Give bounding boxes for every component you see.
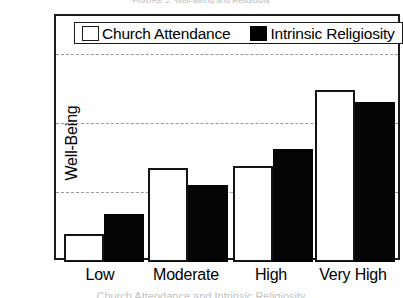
figure-caption-top: FIGURE 2. Well-Being and Religiosity bbox=[0, 0, 402, 4]
x-tick-very-high: Very High bbox=[310, 266, 396, 283]
legend-item-intrinsic-religiosity: Intrinsic Religiosity bbox=[247, 26, 397, 41]
bars-layer bbox=[56, 16, 398, 258]
x-tick-moderate: Moderate bbox=[146, 266, 226, 283]
x-tick-low: Low bbox=[62, 266, 138, 283]
plot-area: 3.1 2.9 2.7 2.5 Well-Being Church Attend… bbox=[54, 14, 400, 260]
bar-intrinsic-religiosity-low bbox=[104, 214, 144, 262]
figure-caption-bottom: Church Attendance and Intrinsic Religios… bbox=[0, 290, 402, 298]
bar-church-attendance-very-high bbox=[315, 90, 355, 262]
bar-church-attendance-moderate bbox=[148, 168, 188, 262]
bar-intrinsic-religiosity-very-high bbox=[355, 102, 395, 262]
chart-legend: Church Attendance Intrinsic Religiosity bbox=[74, 22, 403, 44]
legend-swatch-black-icon bbox=[250, 26, 267, 41]
bar-church-attendance-high bbox=[233, 166, 273, 262]
bar-intrinsic-religiosity-moderate bbox=[188, 185, 228, 262]
legend-label-intrinsic-religiosity: Intrinsic Religiosity bbox=[270, 26, 394, 41]
x-tick-high: High bbox=[232, 266, 310, 283]
bar-church-attendance-low bbox=[64, 234, 104, 262]
bar-intrinsic-religiosity-high bbox=[273, 149, 313, 262]
legend-item-church-attendance: Church Attendance bbox=[79, 26, 233, 41]
legend-label-church-attendance: Church Attendance bbox=[102, 26, 230, 41]
legend-swatch-white-icon bbox=[82, 26, 99, 41]
